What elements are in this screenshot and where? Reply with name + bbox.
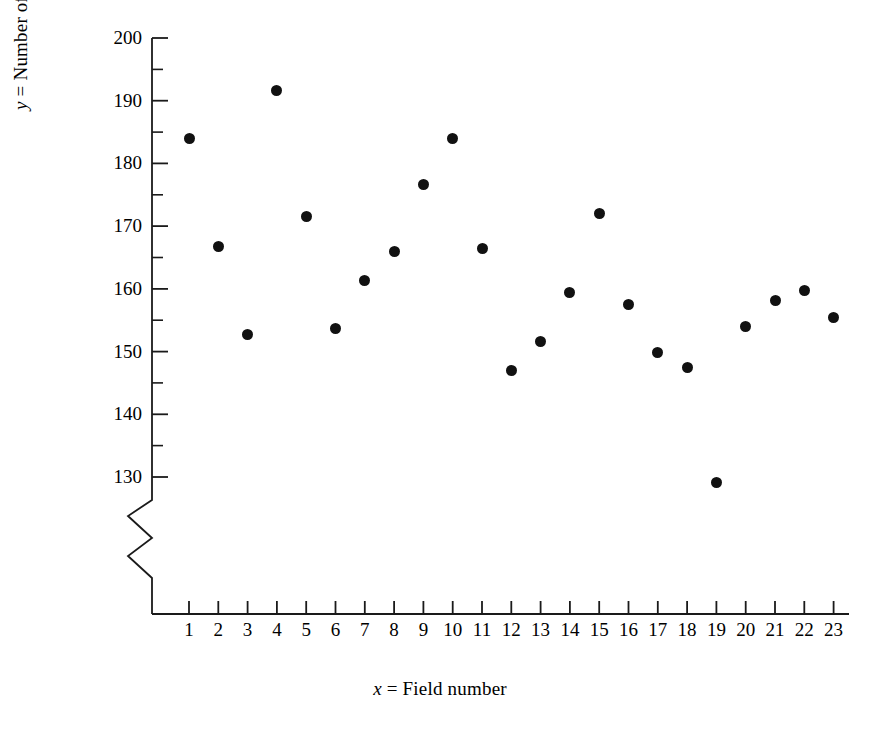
y-tick-label: 140 (82, 404, 142, 423)
y-axis-label-variable: y (10, 101, 31, 110)
scatter-plot-figure: 200190180170160150140130 123456789101112… (0, 0, 880, 735)
data-point (242, 329, 253, 340)
data-point (770, 295, 781, 306)
x-axis-label-variable: x (373, 678, 382, 699)
y-axis-label: y = Number of pollen grains per field (10, 0, 32, 110)
data-point (506, 365, 517, 376)
data-point (301, 211, 312, 222)
data-point (682, 362, 693, 373)
data-point (594, 208, 605, 219)
y-tick-label: 160 (82, 279, 142, 298)
data-point (271, 85, 282, 96)
data-point (330, 323, 341, 334)
y-tick-label: 200 (82, 28, 142, 47)
x-tick-label: 23 (814, 620, 854, 639)
data-point (799, 285, 810, 296)
data-point (389, 246, 400, 257)
data-point (477, 243, 488, 254)
x-axis-label: x = Field number (0, 678, 880, 700)
data-point (711, 477, 722, 488)
data-point (184, 133, 195, 144)
data-point (623, 299, 634, 310)
y-tick-label: 170 (82, 216, 142, 235)
data-point (418, 179, 429, 190)
y-tick-label: 150 (82, 342, 142, 361)
y-axis-label-text: = Number of pollen grains per field (10, 0, 31, 101)
y-tick-label: 130 (82, 467, 142, 486)
y-tick-label: 190 (82, 91, 142, 110)
data-point (447, 133, 458, 144)
data-point (359, 275, 370, 286)
y-tick-label: 180 (82, 153, 142, 172)
x-axis-label-text: = Field number (382, 678, 507, 699)
